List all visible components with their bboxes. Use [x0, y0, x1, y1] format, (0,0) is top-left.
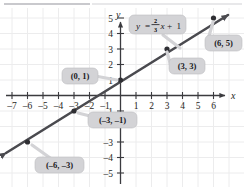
point-callout-label: (0, 1) — [71, 71, 90, 81]
x-axis — [6, 92, 225, 99]
y-axis-label: y — [115, 9, 121, 20]
header-rule-left — [4, 3, 90, 5]
equation-plus: + — [167, 21, 172, 31]
y-tick-label: –4 — [103, 153, 114, 163]
x-tick-label: 5 — [196, 101, 201, 111]
y-tick-label: –5 — [103, 169, 114, 179]
function-line — [6, 15, 228, 153]
point-callout-neg3-neg1: (–3, –1) — [88, 112, 137, 128]
equation-intercept: 1 — [177, 21, 182, 31]
x-tick-label: 1 — [134, 101, 139, 111]
equation-equals: = — [145, 21, 150, 31]
x-tick-label: 2 — [149, 101, 154, 111]
x-tick-label: –7 — [6, 101, 17, 111]
equation-denominator: 3 — [154, 26, 157, 33]
equation-lhs: y — [135, 21, 141, 31]
y-tick-label: 3 — [108, 45, 113, 55]
point-callout-label: (3, 3) — [178, 61, 197, 71]
x-tick-label: 4 — [180, 101, 185, 111]
data-point — [71, 108, 76, 113]
point-callout-label: (–6, –3) — [46, 160, 73, 170]
header-rule-right — [92, 3, 242, 5]
y-tick-label: –3 — [103, 138, 114, 148]
y-tick-label: 5 — [108, 14, 113, 24]
x-tick-label: 6 — [211, 101, 216, 111]
x-tick-label: 3 — [165, 101, 170, 111]
x-axis-label: x — [230, 90, 236, 101]
point-callout-3-3: (3, 3) — [169, 58, 205, 74]
x-tick-label: –4 — [53, 101, 64, 111]
y-axis — [117, 18, 124, 184]
figure-root: x y –7 –6 –5 –4 –3 –2 –1 1 2 3 4 5 6 5 4… — [0, 0, 244, 187]
coordinate-plane: x y –7 –6 –5 –4 –3 –2 –1 1 2 3 4 5 6 5 4… — [0, 8, 244, 187]
x-tick-label: –6 — [22, 101, 33, 111]
point-callout-neg6-neg3: (–6, –3) — [35, 157, 84, 173]
callout-tails — [32, 22, 213, 165]
equation-callout: y = 2 3 x + 1 — [129, 15, 186, 34]
equation-numerator: 2 — [154, 17, 157, 24]
point-callout-6-5: (6, 5) — [205, 35, 242, 51]
y-tick-label: 2 — [108, 60, 113, 70]
data-point — [118, 77, 123, 82]
data-point — [211, 15, 216, 20]
point-callout-label: (–3, –1) — [99, 115, 126, 125]
point-callout-label: (6, 5) — [214, 38, 233, 48]
point-callout-0-1: (0, 1) — [62, 68, 98, 84]
x-tick-label: –5 — [37, 101, 48, 111]
data-point — [25, 139, 30, 144]
y-tick-label: 4 — [108, 29, 113, 39]
